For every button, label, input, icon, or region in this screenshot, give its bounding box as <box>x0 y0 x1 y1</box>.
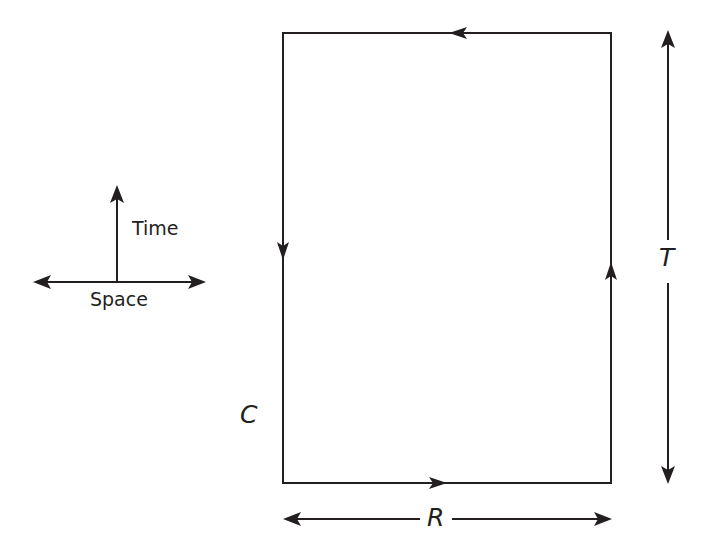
space-axis-label: Space <box>90 288 148 310</box>
time-axis-label: Time <box>132 217 179 239</box>
diagram-canvas <box>0 0 710 550</box>
width-label-r: R <box>427 503 444 532</box>
height-label-t: T <box>659 243 674 272</box>
loop-rectangle <box>283 33 611 483</box>
loop-label-c: C <box>240 400 257 429</box>
